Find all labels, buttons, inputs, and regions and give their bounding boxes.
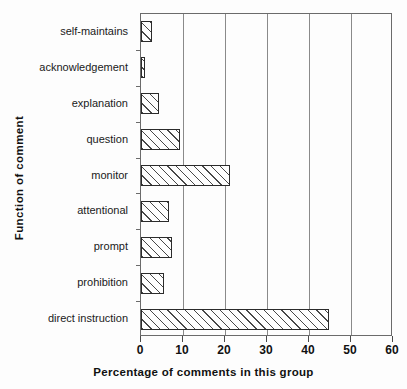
gridline xyxy=(351,14,352,335)
category-tick-label: direct instruction xyxy=(48,311,128,325)
x-axis-tick xyxy=(182,336,183,342)
category-tick-label: self-maintains xyxy=(60,24,128,38)
category-tick-label: attentional xyxy=(77,203,128,217)
y-axis-tick xyxy=(136,301,141,302)
x-axis-tick-label: 50 xyxy=(330,343,370,357)
x-axis-tick xyxy=(392,336,393,342)
bar xyxy=(141,201,169,222)
x-axis-tick-label: 0 xyxy=(120,343,160,357)
y-axis-tick xyxy=(136,229,141,230)
y-axis-tick xyxy=(136,193,141,194)
y-axis-tick xyxy=(136,122,141,123)
category-tick-label: question xyxy=(86,132,128,146)
x-axis-tick-label: 10 xyxy=(162,343,202,357)
category-tick-label: explanation xyxy=(72,96,128,110)
category-tick-label: prompt xyxy=(94,239,128,253)
bar xyxy=(141,21,152,42)
bar xyxy=(141,165,230,186)
x-axis-tick xyxy=(350,336,351,342)
bar xyxy=(141,237,172,258)
x-axis-tick-label: 60 xyxy=(372,343,407,357)
y-axis-tick xyxy=(136,50,141,51)
plot-area xyxy=(140,13,392,336)
gridline xyxy=(309,14,310,335)
bar xyxy=(141,309,329,330)
x-axis-tick xyxy=(308,336,309,342)
y-axis-tick xyxy=(136,265,141,266)
bar xyxy=(141,273,164,294)
x-axis-tick-label: 20 xyxy=(204,343,244,357)
x-axis-tick xyxy=(266,336,267,342)
category-tick-label: monitor xyxy=(91,168,128,182)
category-tick-label-group: self-maintainsacknowledgementexplanation… xyxy=(0,13,134,336)
bar xyxy=(141,93,159,114)
x-axis-tick xyxy=(224,336,225,342)
x-axis-tick-label: 40 xyxy=(288,343,328,357)
y-axis-tick xyxy=(136,158,141,159)
x-axis-tick xyxy=(140,336,141,342)
x-axis-tick-label: 30 xyxy=(246,343,286,357)
category-tick-label: prohibition xyxy=(77,275,128,289)
bar xyxy=(141,129,180,150)
gridline xyxy=(267,14,268,335)
x-axis-title: Percentage of comments in this group xyxy=(0,366,407,378)
y-axis-tick xyxy=(136,86,141,87)
bar-chart-figure: Function of comment self-maintainsacknow… xyxy=(0,0,407,389)
category-tick-label: acknowledgement xyxy=(39,60,128,74)
bar xyxy=(141,57,145,78)
